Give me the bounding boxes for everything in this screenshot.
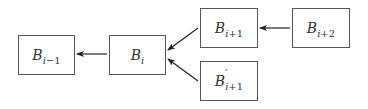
node-b-i-minus-1: Bi−1 (18, 35, 75, 75)
edge-bprime-i-plus-1-to-bi (168, 59, 198, 81)
subscript-op: + (228, 81, 236, 92)
node-b-prime-i-plus-1: B′i+1 (200, 61, 258, 101)
subscript-var: i (141, 55, 144, 66)
subscript-op: + (320, 28, 328, 39)
node-b-i: Bi (109, 35, 166, 75)
node-b-i-plus-2: Bi+2 (292, 8, 350, 48)
subscript-op: − (46, 55, 54, 66)
subscript-num: 1 (54, 55, 60, 66)
subscript-num: 1 (237, 81, 243, 92)
subscript-num: 1 (237, 28, 243, 39)
base-symbol: B (215, 73, 225, 89)
node-b-i-plus-1: Bi+1 (200, 8, 258, 48)
node-label: B′i+1 (215, 73, 243, 89)
subscript: i+2 (317, 28, 335, 39)
prime-mark: ′ (225, 67, 228, 80)
base-symbol: B (131, 47, 141, 63)
edge-bi-plus-1-to-bi (168, 28, 198, 50)
base-symbol: B (307, 20, 317, 36)
base-symbol: B (215, 20, 225, 36)
subscript: ′i+1 (225, 77, 243, 88)
node-label: Bi+2 (307, 20, 335, 36)
node-label: Bi (131, 47, 145, 63)
subscript-op: + (228, 28, 236, 39)
subscript: i+1 (225, 28, 243, 39)
node-label: Bi−1 (32, 47, 60, 63)
subscript-num: 2 (329, 28, 335, 39)
base-symbol: B (32, 47, 42, 63)
subscript: i−1 (43, 55, 61, 66)
node-label: Bi+1 (215, 20, 243, 36)
subscript: i (141, 55, 144, 66)
